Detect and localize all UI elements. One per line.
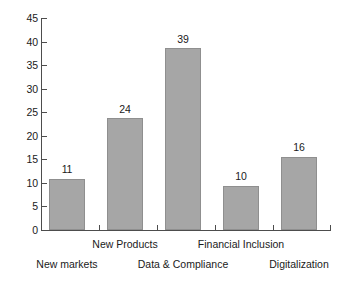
y-tick-0 <box>42 230 47 231</box>
bar-new-products[interactable] <box>107 118 143 230</box>
x-label-new-markets: New markets <box>7 258 127 270</box>
y-tick-15 <box>42 159 47 160</box>
y-tick-25 <box>42 112 47 113</box>
bar-value-digitalization: 16 <box>281 142 317 153</box>
x-tick-boundary-5 <box>330 225 331 230</box>
y-tick-30 <box>42 89 47 90</box>
bar-value-new-products: 24 <box>107 104 143 115</box>
x-tick-boundary-2 <box>157 225 158 230</box>
y-tick-label-20: 20 <box>12 131 38 142</box>
x-tick-boundary-1 <box>99 225 100 230</box>
x-axis-line <box>41 230 331 231</box>
y-tick-10 <box>42 183 47 184</box>
x-label-data-compliance: Data & Compliance <box>123 258 243 270</box>
y-tick-label-5: 5 <box>12 201 38 212</box>
bar-data-compliance[interactable] <box>165 48 201 230</box>
y-tick-40 <box>42 42 47 43</box>
x-label-new-products: New Products <box>65 238 185 250</box>
y-tick-5 <box>42 206 47 207</box>
x-tick-boundary-4 <box>273 225 274 230</box>
x-label-financial-inclusion: Financial Inclusion <box>181 238 301 250</box>
bar-digitalization[interactable] <box>281 157 317 231</box>
y-tick-label-10: 10 <box>12 178 38 189</box>
y-tick-label-40: 40 <box>12 37 38 48</box>
y-axis-line <box>41 18 42 231</box>
y-tick-35 <box>42 65 47 66</box>
y-tick-label-45: 45 <box>12 13 38 24</box>
y-tick-20 <box>42 136 47 137</box>
y-tick-label-25: 25 <box>12 107 38 118</box>
y-tick-label-15: 15 <box>12 154 38 165</box>
y-tick-label-35: 35 <box>12 60 38 71</box>
bar-financial-inclusion[interactable] <box>223 186 259 230</box>
bar-value-data-compliance: 39 <box>165 34 201 45</box>
bar-value-new-markets: 11 <box>49 164 85 175</box>
bar-value-financial-inclusion: 10 <box>223 171 259 182</box>
y-tick-45 <box>42 18 47 19</box>
bar-chart: 45 40 35 30 25 20 15 10 5 0 11 24 39 10 … <box>0 0 339 282</box>
y-tick-label-30: 30 <box>12 84 38 95</box>
x-label-digitalization: Digitalization <box>239 258 339 270</box>
bar-new-markets[interactable] <box>49 179 85 230</box>
x-tick-boundary-3 <box>215 225 216 230</box>
y-tick-label-0: 0 <box>12 225 38 236</box>
